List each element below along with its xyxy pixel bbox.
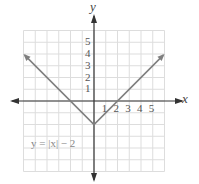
- y-tick-label: 1: [85, 82, 91, 94]
- graph-canvas: [0, 0, 199, 184]
- x-tick-label: 5: [149, 102, 155, 114]
- axes: [10, 14, 184, 182]
- x-tick-label: 3: [125, 102, 131, 114]
- x-axis-label: x: [182, 91, 188, 107]
- x-tick-label: 1: [102, 102, 108, 114]
- y-axis-label: y: [90, 0, 96, 15]
- y-tick-label: 3: [85, 59, 91, 71]
- y-tick-label: 4: [85, 47, 91, 59]
- x-tick-label: 2: [114, 102, 120, 114]
- x-tick-label: 4: [137, 102, 143, 114]
- y-tick-label: 2: [85, 71, 91, 83]
- y-tick-label: 5: [85, 35, 91, 47]
- equation-label: y = |x| − 2: [31, 137, 75, 149]
